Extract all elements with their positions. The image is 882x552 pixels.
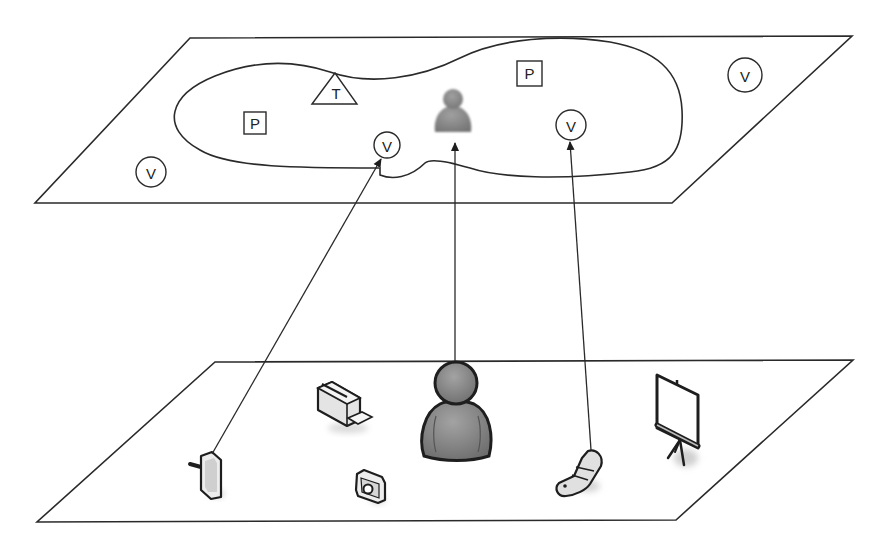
symbol-label: V: [146, 165, 156, 182]
symbol-label: V: [566, 118, 576, 135]
symbol-label: V: [382, 138, 392, 155]
top-plane: V P T V P V V: [35, 36, 852, 203]
symbol-label: P: [250, 115, 260, 132]
bottom-plane: [37, 360, 853, 522]
layered-mapping-diagram: V P T V P V V: [0, 0, 882, 552]
symbol-v-mid: V: [374, 132, 400, 158]
symbol-label: P: [524, 65, 534, 82]
symbol-p-left: P: [244, 112, 266, 134]
symbol-v-outer-right: V: [728, 58, 762, 92]
symbol-label: V: [740, 68, 750, 85]
symbol-v-outer-left: V: [136, 157, 166, 187]
symbol-v-right: V: [556, 110, 586, 140]
symbol-p-right: P: [517, 61, 542, 86]
symbol-label: T: [331, 85, 340, 102]
